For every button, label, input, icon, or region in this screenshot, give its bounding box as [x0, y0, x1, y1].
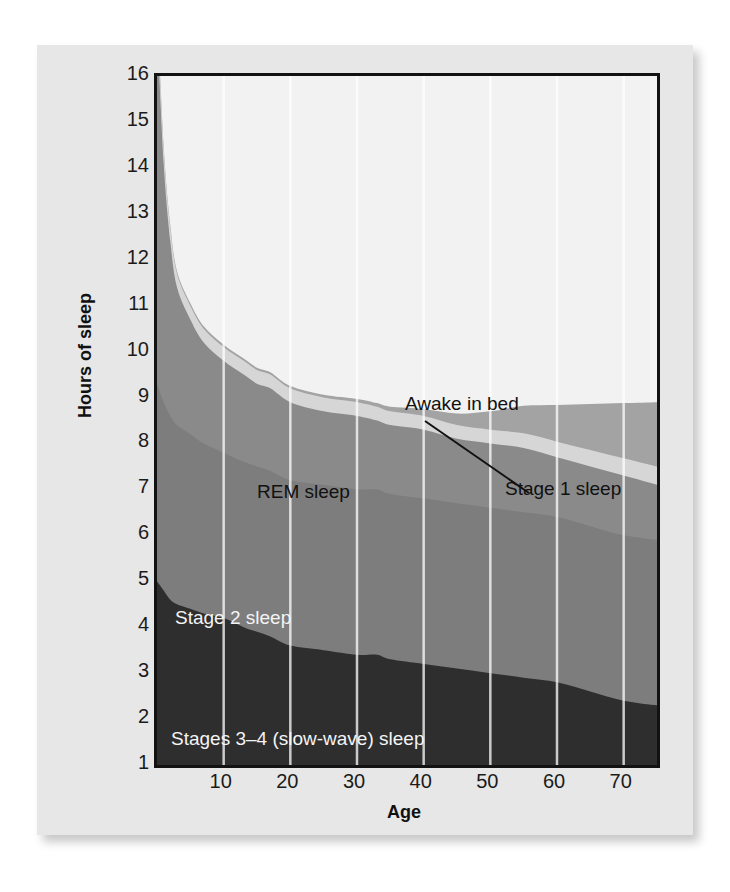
y-axis-tick-label: 8 — [94, 430, 149, 450]
x-axis-title: Age — [154, 802, 654, 823]
x-axis-tick-label: 70 — [610, 771, 632, 791]
y-axis-tick-label: 13 — [94, 201, 149, 221]
plot-area: Awake in bed Stage 1 sleep REM sleep Sta… — [154, 73, 660, 768]
x-axis-tick-label: 30 — [343, 771, 365, 791]
annotation-rem-sleep: REM sleep — [257, 482, 350, 501]
x-axis-tick-label: 50 — [476, 771, 498, 791]
figure-card: Hours of sleep 16151413121110987654321 A… — [37, 45, 693, 835]
y-axis-tick-label: 4 — [94, 614, 149, 634]
y-axis-tick-label: 14 — [94, 155, 149, 175]
stacked-area-chart — [157, 76, 657, 765]
x-axis-tick-label: 60 — [543, 771, 565, 791]
x-axis-tick-label: 10 — [210, 771, 232, 791]
y-axis-tick-label: 2 — [94, 706, 149, 726]
y-axis-tick-labels: 16151413121110987654321 — [94, 73, 149, 762]
y-axis-tick-label: 6 — [94, 522, 149, 542]
y-axis-tick-label: 11 — [94, 293, 149, 313]
annotation-stage-1-sleep: Stage 1 sleep — [505, 479, 621, 498]
y-axis-tick-label: 1 — [94, 752, 149, 772]
y-axis-tick-label: 5 — [94, 568, 149, 588]
x-axis-tick-label: 40 — [410, 771, 432, 791]
y-axis-title: Hours of sleep — [75, 256, 96, 456]
annotation-awake-in-bed: Awake in bed — [405, 394, 519, 413]
plot-inner — [157, 76, 657, 765]
y-axis-tick-label: 10 — [94, 339, 149, 359]
x-axis-tick-label: 20 — [276, 771, 298, 791]
y-axis-tick-label: 12 — [94, 247, 149, 267]
annotation-stages-3-4-sleep: Stages 3–4 (slow-wave) sleep — [171, 729, 424, 748]
y-axis-tick-label: 7 — [94, 476, 149, 496]
y-axis-tick-label: 3 — [94, 660, 149, 680]
y-axis-tick-label: 15 — [94, 109, 149, 129]
x-axis-tick-labels: 10203040506070 — [154, 771, 654, 801]
annotation-stage-2-sleep: Stage 2 sleep — [175, 608, 291, 627]
y-axis-tick-label: 16 — [94, 63, 149, 83]
y-axis-tick-label: 9 — [94, 385, 149, 405]
